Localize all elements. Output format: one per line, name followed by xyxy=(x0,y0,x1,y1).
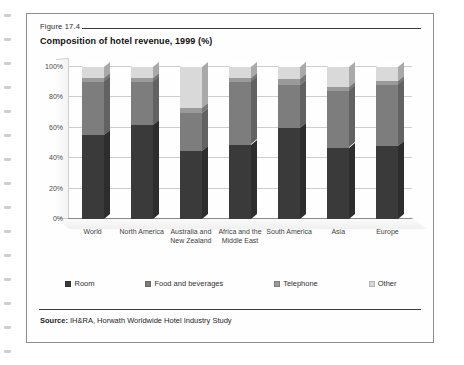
bar-segment xyxy=(229,67,251,78)
legend-label: Food and beverages xyxy=(154,279,223,288)
bar-segment xyxy=(327,148,349,219)
legend-label: Other xyxy=(378,279,397,288)
y-axis-tick-label: 60% xyxy=(49,123,68,130)
legend-swatch xyxy=(145,281,151,287)
bar-segment xyxy=(131,125,153,219)
bar-segment xyxy=(376,146,398,219)
stacked-bar[interactable] xyxy=(278,67,300,219)
bar-slot xyxy=(215,67,264,219)
bar-slot xyxy=(265,67,314,219)
legend-item[interactable]: Telephone xyxy=(274,279,318,288)
stacked-bar[interactable] xyxy=(82,67,104,219)
bar-segment xyxy=(376,67,398,81)
bar-segment xyxy=(131,82,153,125)
x-axis-label: Asia xyxy=(314,227,363,245)
y-axis-tick-label: 40% xyxy=(49,154,68,161)
figure-title: Composition of hotel revenue, 1999 (%) xyxy=(40,36,421,46)
legend-item[interactable]: Room xyxy=(65,279,94,288)
chart-plot-area: 0%20%40%60%80%100% WorldNorth AmericaAus… xyxy=(40,59,422,274)
stacked-bar[interactable] xyxy=(229,67,251,219)
bar-slot xyxy=(363,67,412,219)
bar-segment xyxy=(327,91,349,147)
figure-container: Figure 17.4 Composition of hotel revenue… xyxy=(26,13,434,343)
y-axis-tick-label: 80% xyxy=(49,93,68,100)
scan-edge-marks xyxy=(0,0,18,365)
legend-label: Room xyxy=(74,279,94,288)
legend-item[interactable]: Other xyxy=(369,279,397,288)
x-axis-label: World xyxy=(68,227,117,245)
figure-header: Figure 17.4 xyxy=(40,22,421,31)
x-axis-label: South America xyxy=(265,227,314,245)
source-note: Source: IH&RA, Horwath Worldwide Hotel I… xyxy=(40,316,421,325)
legend-swatch xyxy=(274,281,280,287)
legend-label: Telephone xyxy=(283,279,318,288)
source-text: IH&RA, Horwath Worldwide Hotel Industry … xyxy=(70,316,232,325)
legend-swatch xyxy=(65,281,71,287)
chart-axes: 0%20%40%60%80%100% xyxy=(68,67,412,219)
bar-slot xyxy=(68,67,117,219)
x-axis-label: Africa and the Middle East xyxy=(215,227,264,245)
bar-segment xyxy=(278,85,300,128)
bar-slot xyxy=(166,67,215,219)
bar-segment xyxy=(82,135,104,219)
bar-segment xyxy=(229,145,251,219)
bar-segment xyxy=(180,67,202,108)
legend-item[interactable]: Food and beverages xyxy=(145,279,223,288)
stacked-bar[interactable] xyxy=(131,67,153,219)
figure-number: Figure 17.4 xyxy=(40,22,80,31)
chart-legend: RoomFood and beveragesTelephoneOther xyxy=(40,279,422,288)
bar-slot xyxy=(314,67,363,219)
source-rule xyxy=(39,309,421,310)
stacked-bar[interactable] xyxy=(376,67,398,219)
y-axis-tick-label: 100% xyxy=(45,63,68,70)
bar-segment xyxy=(229,82,251,144)
legend-swatch xyxy=(369,281,375,287)
x-axis-label: North America xyxy=(117,227,166,245)
bar-segment xyxy=(82,82,104,135)
y-axis-tick-label: 0% xyxy=(53,215,68,222)
y-axis-tick-label: 20% xyxy=(49,184,68,191)
bar-segment xyxy=(278,128,300,219)
x-axis-label: Australia and New Zealand xyxy=(166,227,215,245)
stacked-bar[interactable] xyxy=(180,67,202,219)
stacked-bar[interactable] xyxy=(327,67,349,219)
chart-bars xyxy=(68,67,412,219)
bar-segment xyxy=(376,85,398,146)
bar-segment xyxy=(131,67,153,78)
bar-segment xyxy=(327,67,349,87)
chart-x-axis-labels: WorldNorth AmericaAustralia and New Zeal… xyxy=(68,227,412,245)
bar-segment xyxy=(180,151,202,219)
x-axis-label: Europe xyxy=(363,227,412,245)
figure-header-rule xyxy=(82,28,421,29)
source-label: Source: xyxy=(40,316,68,325)
bar-segment xyxy=(180,113,202,151)
bar-segment xyxy=(278,67,300,79)
bar-slot xyxy=(117,67,166,219)
bar-segment xyxy=(82,67,104,78)
